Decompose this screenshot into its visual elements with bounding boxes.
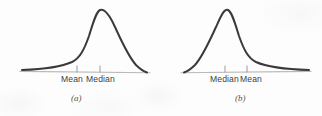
axis-label-median-a: Median <box>86 74 115 84</box>
axis-label-mean-b: Mean <box>240 74 262 84</box>
figure-container: Mean Median (a) Median Mean (b) <box>0 0 322 116</box>
axis-label-median-b: Median <box>210 74 239 84</box>
panel-b-right-skewed: Median Mean (b) <box>161 0 322 116</box>
distribution-curve-a <box>22 10 147 73</box>
distribution-curve-b <box>184 10 309 73</box>
panel-caption-b: (b) <box>235 93 246 103</box>
panel-caption-a: (a) <box>71 93 82 103</box>
x-axis-b <box>181 71 311 72</box>
panel-a-left-skewed: Mean Median (a) <box>0 0 161 116</box>
axis-label-mean-a: Mean <box>61 74 83 84</box>
x-axis-a <box>20 71 150 72</box>
